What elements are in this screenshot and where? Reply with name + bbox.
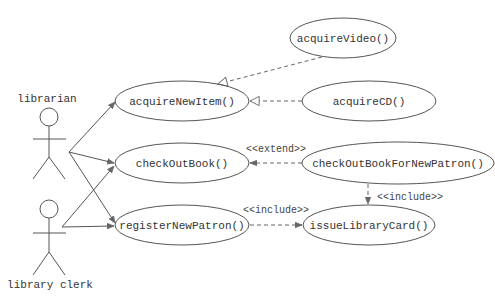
use-case-label: registerNewPatron() (119, 220, 244, 232)
use-case-checkOutBook[interactable]: checkOutBook() (115, 143, 249, 183)
use-case-label: acquireCD() (333, 96, 406, 108)
association-clerk-checkOutBook (62, 166, 114, 227)
actor-label-library-clerk: library clerk (7, 279, 93, 291)
use-case-label: issueLibraryCard() (310, 220, 429, 232)
use-case-acquireVideo[interactable]: acquireVideo() (290, 18, 396, 58)
extend-stereotype-label: <<extend>> (246, 144, 306, 155)
association-clerk-registerNewPatron (62, 226, 114, 227)
actor-librarian[interactable]: librarian (17, 93, 76, 179)
association-librarian-checkOutBook (69, 152, 114, 163)
include-stereotype-label-vertical: <<include>> (377, 192, 443, 203)
actor-head-icon (40, 200, 58, 218)
actor-head-icon (40, 108, 58, 126)
actor-left-leg (33, 252, 49, 275)
use-case-label: acquireNewItem() (129, 96, 235, 108)
association-librarian-registerNewPatron (69, 152, 115, 223)
use-case-checkOutBookForNewPatron[interactable]: checkOutBookForNewPatron() (302, 142, 494, 184)
generalization-acquireVideo-acquireNewItem (218, 57, 322, 84)
use-case-label: checkOutBook() (136, 158, 228, 170)
use-case-registerNewPatron[interactable]: registerNewPatron() (115, 205, 249, 245)
association-librarian-acquireNewItem (69, 102, 115, 152)
actor-right-leg (49, 157, 65, 179)
actor-label-librarian: librarian (17, 93, 76, 105)
include-stereotype-label-horizontal: <<include>> (243, 205, 309, 216)
use-case-acquireNewItem[interactable]: acquireNewItem() (115, 81, 249, 121)
use-case-acquireCD[interactable]: acquireCD() (302, 81, 436, 121)
actor-right-leg (49, 252, 65, 275)
use-case-label: acquireVideo() (297, 33, 389, 45)
use-case-issueLibraryCard[interactable]: issueLibraryCard() (303, 205, 435, 245)
use-case-diagram: librarian library clerk <<extend>> <<inc… (0, 0, 495, 299)
use-case-label: checkOutBookForNewPatron() (312, 158, 484, 170)
actor-library-clerk[interactable]: library clerk (7, 200, 93, 291)
actor-left-leg (33, 157, 49, 179)
